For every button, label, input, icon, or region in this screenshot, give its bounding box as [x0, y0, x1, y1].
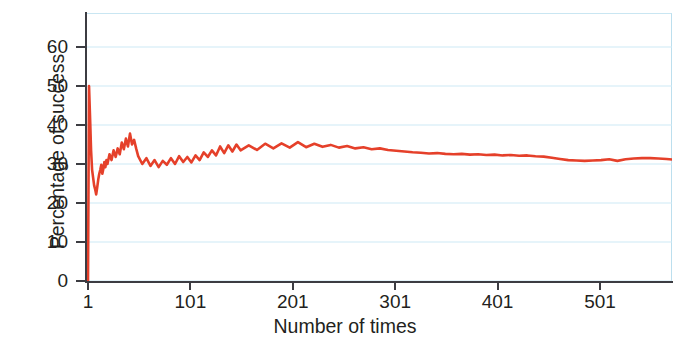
x-axis-title: Number of times: [85, 315, 605, 338]
y-tick-10: [76, 241, 86, 243]
x-tick-201: [292, 281, 294, 290]
clipped-title-remnant: · ·: [236, 0, 456, 4]
chart-figure: · · 0102030405060 1101201301401501 Perce…: [0, 0, 684, 344]
x-axis-spine: [85, 281, 673, 283]
x-tick-401: [497, 281, 499, 290]
y-tick-30: [76, 163, 86, 165]
x-tick-501: [599, 281, 601, 290]
x-tick-label-301: 301: [355, 292, 435, 311]
y-tick-20: [76, 202, 86, 204]
y-axis-title: Percentage of success: [46, 2, 69, 302]
plot-area: [86, 13, 672, 281]
chart-svg: [86, 13, 672, 281]
x-tick-label-501: 501: [560, 292, 640, 311]
data-line-series-0: [88, 86, 672, 281]
y-tick-0: [76, 280, 86, 282]
x-tick-label-201: 201: [253, 292, 333, 311]
y-tick-50: [76, 85, 86, 87]
x-tick-1: [87, 281, 89, 290]
x-tick-label-101: 101: [150, 292, 230, 311]
y-tick-60: [76, 46, 86, 48]
y-tick-40: [76, 124, 86, 126]
x-tick-301: [394, 281, 396, 290]
x-tick-101: [189, 281, 191, 290]
x-tick-label-401: 401: [458, 292, 538, 311]
